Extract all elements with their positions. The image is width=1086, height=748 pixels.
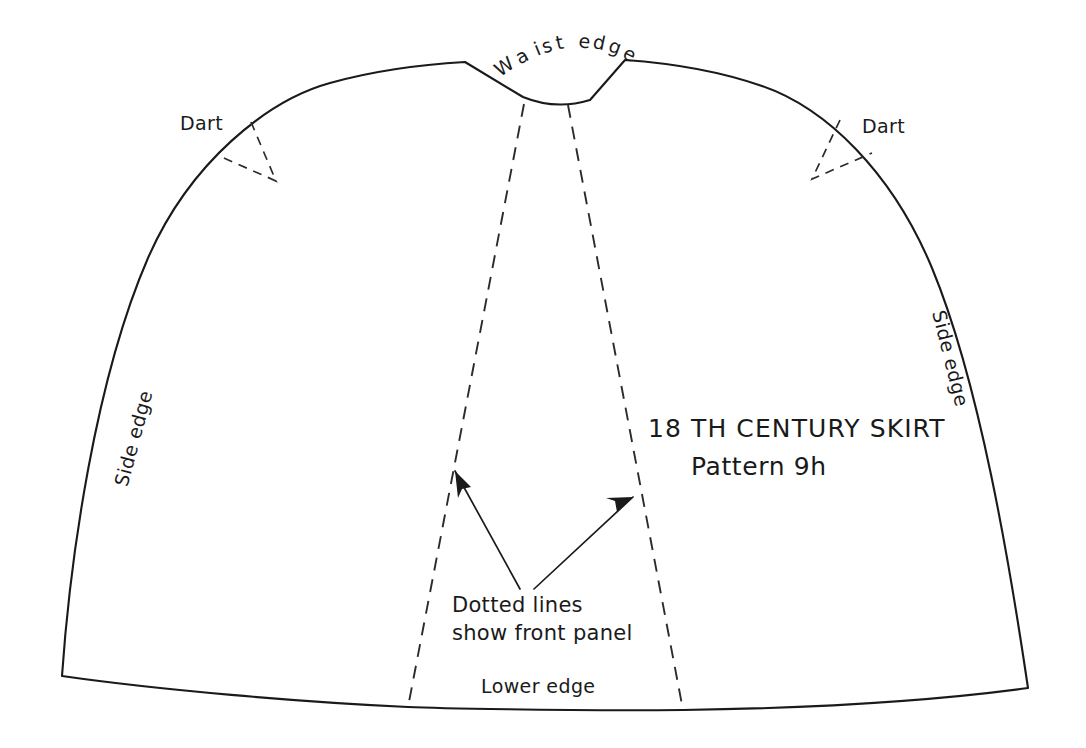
front-panel-caption-line-2: show front panel bbox=[452, 621, 633, 645]
dart-left-shape bbox=[217, 122, 276, 181]
skirt-pattern-drawing: Waistedge Dart Dart Side edge Side edge … bbox=[0, 0, 1086, 748]
waist-edge-label-char-6: d bbox=[591, 30, 608, 54]
pattern-diagram-sheet: Waistedge Dart Dart Side edge Side edge … bbox=[0, 0, 1086, 748]
dart-left-label: Dart bbox=[180, 112, 223, 134]
side-edge-right-label: Side edge bbox=[928, 308, 973, 409]
front-panel-right-dashed-line bbox=[568, 105, 683, 710]
pattern-title: 18 TH CENTURY SKIRT bbox=[648, 414, 946, 443]
waist-edge-label-char-5: e bbox=[578, 29, 592, 52]
waist-edge-label-char-4: t bbox=[553, 31, 565, 54]
dart-right-label: Dart bbox=[862, 115, 905, 137]
pattern-number: Pattern 9h bbox=[691, 452, 827, 481]
waist-edge-label: Waistedge bbox=[490, 29, 641, 80]
caption-arrow-left-line bbox=[455, 471, 520, 589]
front-panel-caption-line-1: Dotted lines bbox=[452, 593, 583, 617]
lower-edge-label: Lower edge bbox=[481, 675, 595, 697]
side-edge-left-label: Side edge bbox=[110, 388, 157, 489]
